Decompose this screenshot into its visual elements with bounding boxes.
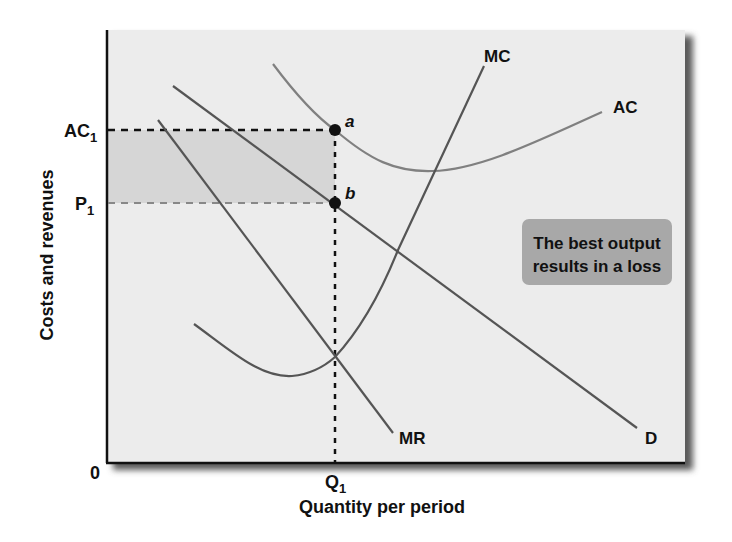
ac1-tick-label: AC1 [64,121,97,145]
q1-tick-label: Q1 [325,472,346,496]
mr-label: MR [399,429,425,448]
x-axis-title: Quantity per period [299,497,465,517]
point-a [329,124,341,136]
chart: a b MC AC D MR The best output results i… [0,0,732,542]
point-b [329,197,341,209]
point-b-label: b [345,184,355,203]
callout-line-1: The best output [533,234,661,253]
d-label: D [645,429,657,448]
callout-line-2: results in a loss [533,257,662,276]
y-axis-title: Costs and revenues [37,169,57,340]
loss-region [108,130,335,203]
p1-tick-label: P1 [75,194,94,218]
origin-label: 0 [90,463,100,483]
ac-label: AC [613,98,638,117]
point-a-label: a [345,112,354,131]
mc-label: MC [484,47,510,66]
